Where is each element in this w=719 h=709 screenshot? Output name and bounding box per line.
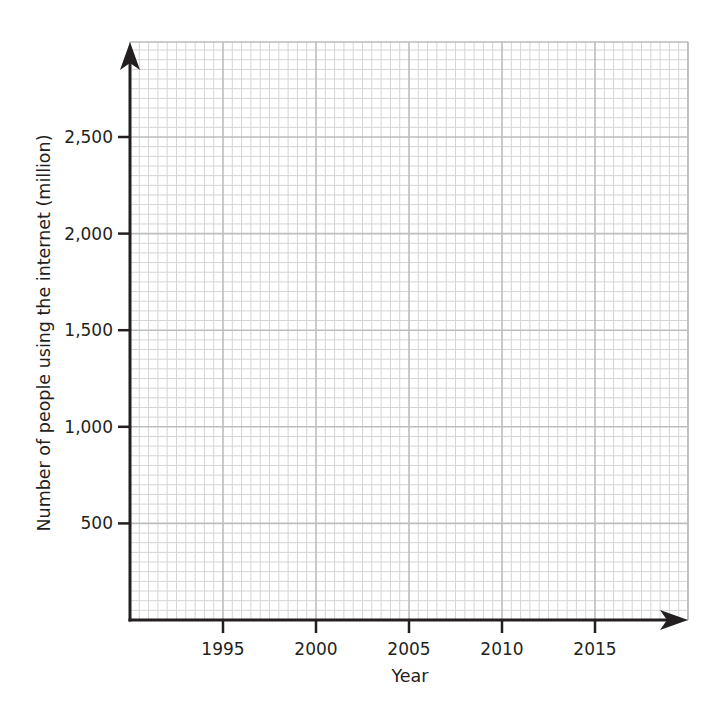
x-tick-label: 1995 <box>201 639 244 659</box>
y-tick-label: 2,500 <box>64 127 113 147</box>
y-axis-title: Number of people using the internet (mil… <box>34 135 54 532</box>
axes <box>120 42 688 630</box>
x-tick-label: 2000 <box>294 639 337 659</box>
x-axis-title: Year <box>390 666 429 686</box>
x-axis-ticks: 19952000200520102015 <box>201 620 616 659</box>
y-tick-label: 500 <box>81 513 113 533</box>
y-axis-ticks: 5001,0001,5002,0002,500 <box>64 127 130 533</box>
graph-paper-chart: 5001,0001,5002,0002,500 1995200020052010… <box>0 0 719 709</box>
x-tick-label: 2005 <box>387 639 430 659</box>
y-tick-label: 1,000 <box>64 417 113 437</box>
x-tick-label: 2010 <box>480 639 523 659</box>
y-tick-label: 2,000 <box>64 224 113 244</box>
y-tick-label: 1,500 <box>64 320 113 340</box>
x-tick-label: 2015 <box>573 639 616 659</box>
